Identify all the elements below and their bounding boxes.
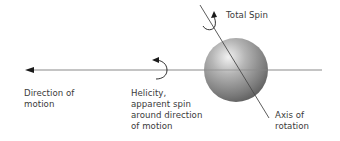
helicity-label: Helicity, apparent spin around direction… <box>131 88 202 132</box>
helicity-curl-icon <box>152 57 167 79</box>
axis-of-rotation-label: Axis of rotation <box>275 110 309 132</box>
direction-of-motion-arrow <box>25 67 322 73</box>
total-spin-label: Total Spin <box>226 10 268 21</box>
direction-of-motion-label: Direction of motion <box>24 88 74 110</box>
